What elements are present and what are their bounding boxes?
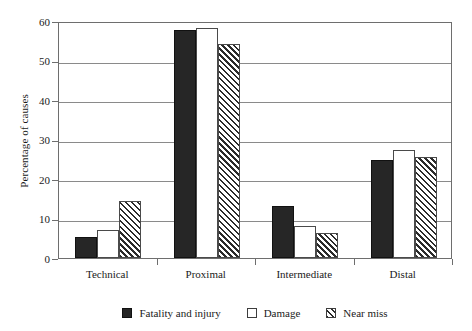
legend-label: Fatality and injury bbox=[139, 307, 220, 319]
x-tick-label: Distal bbox=[343, 268, 463, 281]
y-tick-label: 20 bbox=[10, 175, 50, 186]
chart-figure: Percentage of causes 0102030405060 Techn… bbox=[0, 0, 472, 331]
legend-label: Near miss bbox=[343, 307, 387, 319]
legend-swatch-icon bbox=[122, 308, 132, 318]
plot-area bbox=[58, 22, 452, 259]
legend-swatch-icon bbox=[247, 308, 257, 318]
y-tick-label: 50 bbox=[10, 56, 50, 67]
x-tick-mark bbox=[157, 259, 158, 265]
y-tick-mark bbox=[52, 259, 58, 260]
bar bbox=[371, 160, 393, 258]
x-tick-mark bbox=[255, 259, 256, 265]
y-tick-label: 10 bbox=[10, 214, 50, 225]
y-axis-tick-labels: 0102030405060 bbox=[0, 0, 58, 281]
y-tick-label: 30 bbox=[10, 135, 50, 146]
legend-item: Fatality and injury bbox=[122, 307, 220, 319]
legend-item: Near miss bbox=[326, 307, 387, 319]
bar bbox=[393, 150, 415, 258]
y-tick-label: 60 bbox=[10, 17, 50, 28]
x-tick-mark bbox=[354, 259, 355, 265]
x-tick-mark bbox=[452, 259, 453, 265]
legend-swatch-icon bbox=[326, 308, 336, 318]
legend-label: Damage bbox=[264, 307, 301, 319]
y-tick-label: 0 bbox=[10, 254, 50, 265]
bar-group bbox=[59, 23, 453, 258]
chart-legend: Fatality and injuryDamageNear miss bbox=[58, 303, 452, 323]
legend-item: Damage bbox=[247, 307, 301, 319]
bar bbox=[415, 157, 437, 258]
y-tick-label: 40 bbox=[10, 96, 50, 107]
